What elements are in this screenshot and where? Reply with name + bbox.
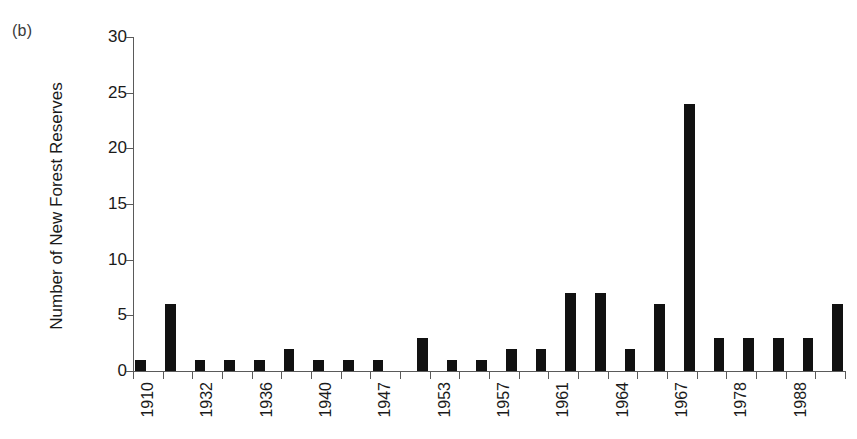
x-axis-tick-label: 1940 <box>317 382 335 418</box>
y-axis-tick <box>126 37 133 38</box>
bar <box>343 360 354 371</box>
x-axis-tick <box>222 371 223 379</box>
y-axis-tick-labels: 051015202530 <box>85 37 127 371</box>
x-axis-tick-label: 1961 <box>554 382 572 418</box>
bar <box>447 360 458 371</box>
bar <box>654 304 665 371</box>
y-axis-tick-label: 15 <box>108 194 127 214</box>
bar <box>714 338 725 371</box>
bar <box>313 360 324 371</box>
bar <box>476 360 487 371</box>
bar <box>417 338 428 371</box>
x-axis-tick <box>311 371 312 379</box>
x-axis-tick-label: 1947 <box>376 382 394 418</box>
x-axis-tick <box>637 371 638 379</box>
x-axis-tick <box>519 371 520 379</box>
x-axis-tick-label: 1978 <box>732 382 750 418</box>
x-axis-tick <box>370 371 371 379</box>
x-axis-tick <box>163 371 164 379</box>
bar <box>135 360 146 371</box>
panel-label: (b) <box>12 22 32 40</box>
x-axis-tick-label: 1957 <box>495 382 513 418</box>
bar <box>773 338 784 371</box>
bar <box>536 349 547 371</box>
x-axis-tick-label: 1967 <box>673 382 691 418</box>
x-axis-tick <box>133 371 134 379</box>
bar <box>373 360 384 371</box>
x-axis-tick <box>548 371 549 379</box>
bar <box>195 360 206 371</box>
x-axis-tick-label: 1988 <box>792 382 810 418</box>
bar-series <box>133 37 845 371</box>
bar <box>284 349 295 371</box>
y-axis-tick-label: 10 <box>108 250 127 270</box>
y-axis-tick-label: 30 <box>108 27 127 47</box>
x-axis-tick-label: 1936 <box>258 382 276 418</box>
x-axis-tick <box>756 371 757 379</box>
y-axis-title: Number of New Forest Reserves <box>47 41 67 371</box>
x-axis-tick-label: 1932 <box>198 382 216 418</box>
bar <box>832 304 843 371</box>
bar <box>684 104 695 371</box>
x-axis-tick <box>430 371 431 379</box>
x-axis-tick <box>667 371 668 379</box>
bar <box>595 293 606 371</box>
x-axis-tick <box>252 371 253 379</box>
x-axis-tick <box>697 371 698 379</box>
bar <box>625 349 636 371</box>
y-axis-tick <box>126 371 133 372</box>
x-axis-tick <box>459 371 460 379</box>
bar <box>803 338 814 371</box>
x-axis-tick <box>815 371 816 379</box>
x-axis-tick <box>341 371 342 379</box>
y-axis-tick <box>126 93 133 94</box>
x-axis-tick <box>578 371 579 379</box>
x-axis-tick-label: 1953 <box>436 382 454 418</box>
x-axis-tick <box>192 371 193 379</box>
x-axis-tick <box>786 371 787 379</box>
y-axis-tick-label: 25 <box>108 83 127 103</box>
bar <box>565 293 576 371</box>
bar <box>254 360 265 371</box>
x-axis-tick <box>489 371 490 379</box>
x-axis-tick-label: 1964 <box>614 382 632 418</box>
y-axis-tick <box>126 204 133 205</box>
y-axis-tick-label: 20 <box>108 138 127 158</box>
y-axis-tick <box>126 260 133 261</box>
x-axis-tick <box>608 371 609 379</box>
y-axis-tick <box>126 148 133 149</box>
bar <box>165 304 176 371</box>
figure-panel-b: (b) Number of New Forest Reserves 051015… <box>0 0 857 439</box>
bar <box>743 338 754 371</box>
bar <box>224 360 235 371</box>
x-axis-tick-labels: 1910193219361940194719531957196119641967… <box>133 382 846 439</box>
x-axis-tick <box>845 371 846 379</box>
x-axis-tick-label: 1910 <box>139 382 157 418</box>
x-axis-tick <box>281 371 282 379</box>
bar <box>506 349 517 371</box>
plot-area <box>133 37 845 371</box>
y-axis-tick <box>126 315 133 316</box>
x-axis-ticks <box>133 371 846 380</box>
x-axis-tick <box>400 371 401 379</box>
x-axis-tick <box>726 371 727 379</box>
